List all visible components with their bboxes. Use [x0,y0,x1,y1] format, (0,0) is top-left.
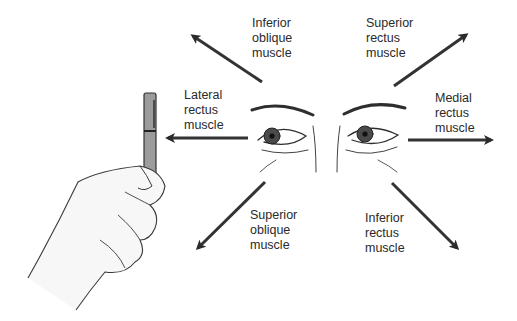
label-line: muscle [184,118,224,133]
label-line: rectus [366,31,413,46]
label-inferior-oblique: Inferior oblique muscle [252,16,292,61]
label-line: rectus [365,226,405,241]
label-line: muscle [365,241,405,256]
label-line: oblique [250,223,297,238]
label-line: Superior [250,208,297,223]
extraocular-muscles-diagram: Inferior oblique muscle Superior rectus … [0,0,517,321]
label-line: muscle [250,238,297,253]
label-superior-rectus: Superior rectus muscle [366,16,413,61]
right-eyebrow [252,106,313,115]
label-line: muscle [366,46,413,61]
label-line: Lateral [184,88,224,103]
left-eyebrow [344,105,405,114]
arrows [168,35,491,248]
label-line: oblique [252,31,292,46]
label-line: Inferior [252,16,292,31]
label-line: rectus [435,106,475,121]
label-line: Medial [435,91,475,106]
label-inferior-rectus: Inferior rectus muscle [365,211,405,256]
label-line: muscle [435,121,475,136]
label-line: muscle [252,46,292,61]
label-lateral-rectus: Lateral rectus muscle [184,88,224,133]
patient-eyes [252,105,405,172]
label-line: Inferior [365,211,405,226]
hand [28,166,165,310]
label-line: rectus [184,103,224,118]
label-medial-rectus: Medial rectus muscle [435,91,475,136]
label-superior-oblique: Superior oblique muscle [250,208,297,253]
hand-holding-pen [28,93,165,310]
label-line: Superior [366,16,413,31]
